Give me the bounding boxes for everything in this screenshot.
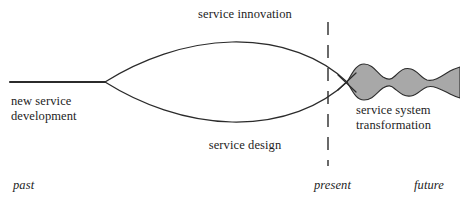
timeline-marker-present: present	[314, 178, 351, 193]
label-service-design: service design	[178, 138, 312, 153]
diagram-canvas: service innovation service design new se…	[0, 0, 460, 205]
label-service-system-transformation: service system transformation	[356, 103, 460, 133]
timeline-marker-future: future	[414, 178, 444, 193]
lower-arc-service-design	[105, 82, 347, 122]
upper-arc-service-innovation	[105, 42, 347, 82]
timeline-marker-past: past	[13, 178, 34, 193]
label-new-service-development: new service development	[11, 94, 121, 124]
label-service-innovation: service innovation	[178, 7, 312, 22]
transformation-band-shape	[347, 64, 460, 100]
